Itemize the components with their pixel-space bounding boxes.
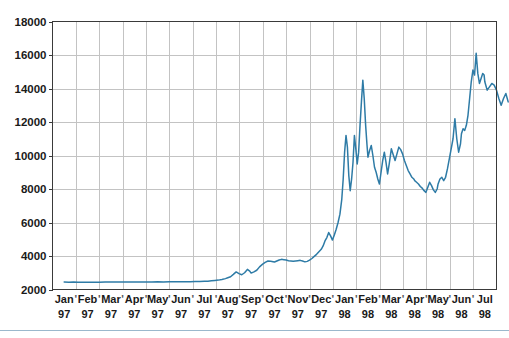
x-tick-year: 98 <box>455 308 467 320</box>
x-tick-year: 98 <box>409 308 421 320</box>
x-tick-year: 97 <box>315 308 327 320</box>
x-tick-year: 97 <box>128 308 140 320</box>
y-tick-label: 6000 <box>21 217 47 229</box>
x-tick-year: 97 <box>58 308 70 320</box>
x-tick-month: Nov <box>287 293 309 305</box>
x-tick-year: 97 <box>105 308 117 320</box>
x-tick-year: 97 <box>152 308 164 320</box>
x-tick-month: Jan <box>335 293 354 305</box>
x-tick-month: Mar <box>382 293 402 305</box>
y-tick-label: 12000 <box>15 116 47 128</box>
y-tick-label: 10000 <box>15 150 47 162</box>
x-tick-month: May <box>147 293 169 305</box>
x-tick-month: Jun <box>452 293 472 305</box>
x-tick-month: Aug <box>217 293 238 305</box>
x-tick-month: Jan <box>55 293 74 305</box>
x-tick-year: 98 <box>479 308 491 320</box>
x-tick-year: 97 <box>268 308 280 320</box>
x-tick-month: Jun <box>171 293 191 305</box>
x-tick-year: 97 <box>292 308 304 320</box>
chart-container: 2000400060008000100001200014000160001800… <box>0 0 509 338</box>
x-tick-month: Oct <box>265 293 284 305</box>
y-tick-label: 4000 <box>21 250 47 262</box>
x-tick-month: Jul <box>196 293 212 305</box>
x-tick-month: Apr <box>125 293 145 305</box>
x-tick-year: 98 <box>385 308 397 320</box>
x-tick-year: 97 <box>245 308 257 320</box>
x-tick-month: Sep <box>241 293 261 305</box>
y-tick-label: 2000 <box>21 284 47 296</box>
x-tick-month: Feb <box>78 293 98 305</box>
x-tick-year: 98 <box>362 308 374 320</box>
x-tick-separator: ' <box>262 293 265 305</box>
x-tick-month: Feb <box>358 293 378 305</box>
x-tick-year: 97 <box>175 308 187 320</box>
y-tick-label: 8000 <box>21 183 47 195</box>
line-chart: 2000400060008000100001200014000160001800… <box>0 0 509 338</box>
x-tick-separator: ' <box>472 293 475 305</box>
y-tick-label: 18000 <box>15 16 47 28</box>
x-tick-month: Apr <box>405 293 425 305</box>
x-tick-year: 97 <box>198 308 210 320</box>
x-tick-month: Mar <box>101 293 121 305</box>
x-tick-separator: ' <box>191 293 194 305</box>
x-tick-month: May <box>427 293 449 305</box>
x-tick-year: 98 <box>338 308 350 320</box>
x-tick-month: Jul <box>477 293 493 305</box>
y-tick-label: 14000 <box>15 83 47 95</box>
x-tick-year: 98 <box>432 308 444 320</box>
y-tick-label: 16000 <box>15 49 47 61</box>
x-tick-month: Dec <box>311 293 331 305</box>
x-tick-year: 97 <box>81 308 93 320</box>
x-tick-year: 97 <box>222 308 234 320</box>
